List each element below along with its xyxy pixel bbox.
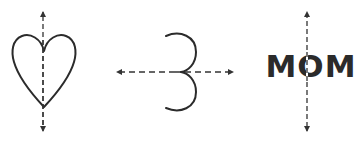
three-upper-arc xyxy=(166,34,196,72)
heart-shape xyxy=(13,35,76,107)
three-lower-arc xyxy=(166,72,196,110)
three-figure xyxy=(117,34,233,111)
mom-word: MOM xyxy=(262,50,360,82)
heart-figure xyxy=(13,12,76,131)
